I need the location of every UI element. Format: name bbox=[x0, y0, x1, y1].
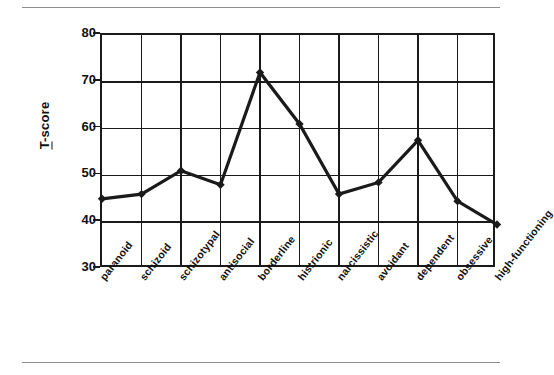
gridline-vertical bbox=[417, 35, 419, 265]
gridline-horizontal bbox=[102, 221, 493, 223]
y-axis-tick-labels: 807060504030 bbox=[62, 0, 96, 375]
y-axis-tick-label: 40 bbox=[62, 213, 96, 226]
gridline-vertical bbox=[299, 35, 301, 265]
gridline-vertical bbox=[378, 35, 380, 265]
gridline-vertical bbox=[220, 35, 222, 265]
gridline-horizontal bbox=[102, 175, 493, 177]
gridline-horizontal bbox=[102, 81, 493, 83]
y-axis-title-rest: -score bbox=[37, 102, 52, 142]
gridline-vertical bbox=[141, 35, 143, 265]
plot-area bbox=[100, 33, 495, 267]
data-point-marker[interactable] bbox=[98, 195, 106, 203]
gridline-vertical bbox=[180, 35, 182, 265]
y-axis-tick-label: 60 bbox=[62, 120, 96, 133]
y-axis-tick-label: 80 bbox=[62, 26, 96, 39]
gridline-vertical bbox=[338, 35, 340, 265]
y-axis-tick-label: 70 bbox=[62, 73, 96, 86]
y-axis-title: T-score bbox=[37, 96, 52, 156]
gridline-vertical bbox=[259, 35, 261, 265]
y-axis-tick-label: 30 bbox=[62, 260, 96, 273]
x-axis-category-label: high-functioning bbox=[492, 207, 554, 282]
gridline-horizontal bbox=[102, 128, 493, 130]
y-axis-title-initial: T bbox=[37, 142, 53, 149]
gridline-vertical bbox=[457, 35, 459, 265]
y-axis-tick-label: 50 bbox=[62, 166, 96, 179]
